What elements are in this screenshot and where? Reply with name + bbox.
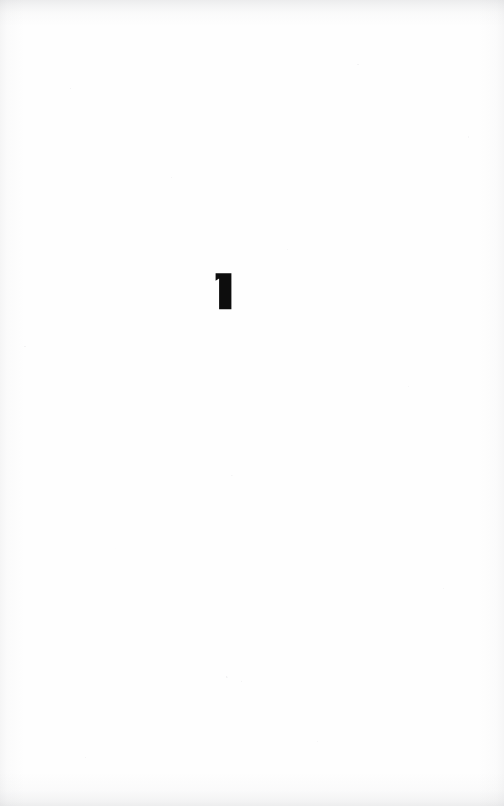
paper-speckle-texture bbox=[0, 0, 504, 806]
page-top-bottom-edge-shading bbox=[0, 0, 504, 806]
chapter-number-glyph: 1 bbox=[215, 272, 232, 310]
chapter-number-label: 1 bbox=[215, 310, 216, 311]
chapter-number-block: 1 bbox=[0, 272, 447, 312]
page-side-edge-shading bbox=[0, 0, 504, 806]
scanned-page: 1 bbox=[0, 0, 504, 806]
